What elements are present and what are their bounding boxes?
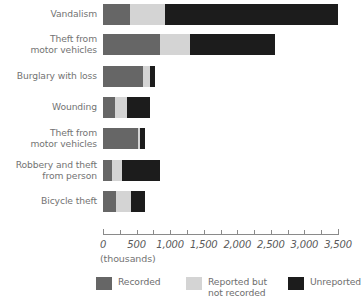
x-axis-tick <box>304 230 305 235</box>
bar-segment-reported-but-not-recorded[interactable] <box>130 4 165 25</box>
bar-row: Wounding <box>0 97 356 127</box>
x-axis-tick <box>153 230 154 235</box>
stacked-bar[interactable] <box>103 34 275 55</box>
bar-segment-unreported[interactable] <box>165 4 338 25</box>
x-axis-tick-label: 1,000 <box>156 239 184 250</box>
category-label: Robbery and theft from person <box>0 160 97 181</box>
bar-row: Theft from motor vehicles <box>0 34 356 64</box>
x-axis-end-cap <box>338 229 339 235</box>
legend-item[interactable]: Unreported <box>288 277 361 290</box>
legend-item[interactable]: Reported but not recorded <box>186 277 267 298</box>
x-axis-end-cap <box>103 229 104 235</box>
bar-segment-unreported[interactable] <box>127 97 150 118</box>
legend-swatch <box>288 277 304 290</box>
bar-segment-unreported[interactable] <box>140 128 145 149</box>
bar-segment-unreported[interactable] <box>190 34 275 55</box>
bar-segment-reported-but-not-recorded[interactable] <box>116 191 131 212</box>
stacked-bar[interactable] <box>103 160 160 181</box>
x-axis-tick <box>120 230 121 235</box>
x-axis-tick <box>221 230 222 235</box>
category-label: Vandalism <box>0 9 97 20</box>
bar-row: Vandalism <box>0 4 356 34</box>
stacked-bar[interactable] <box>103 128 145 149</box>
bar-segment-recorded[interactable] <box>103 66 143 87</box>
x-axis-tick-labels: 05001,0001,5002,0002,5003,0003,500 <box>0 239 356 253</box>
bar-segment-recorded[interactable] <box>103 160 112 181</box>
x-axis-tick <box>237 230 238 235</box>
legend-label: Reported but not recorded <box>208 277 267 298</box>
bar-segment-reported-but-not-recorded[interactable] <box>115 97 127 118</box>
x-axis-tick <box>271 230 272 235</box>
category-label: Wounding <box>0 102 97 113</box>
bar-segment-recorded[interactable] <box>103 128 138 149</box>
legend-item[interactable]: Recorded <box>96 277 160 290</box>
legend-label: Recorded <box>118 277 160 288</box>
bar-row: Bicycle theft <box>0 191 356 221</box>
x-axis-tick-label: 2,500 <box>257 239 285 250</box>
bar-row: Theft from motor vehicles <box>0 128 356 158</box>
plot-area: VandalismTheft from motor vehiclesBurgla… <box>0 0 356 228</box>
x-axis-tick <box>254 230 255 235</box>
category-label: Theft from motor vehicles <box>0 34 97 55</box>
x-axis-unit-label: (thousands) <box>100 253 156 264</box>
legend-swatch <box>96 277 112 290</box>
x-axis-tick <box>288 230 289 235</box>
category-label: Bicycle theft <box>0 196 97 207</box>
bar-segment-unreported[interactable] <box>131 191 144 212</box>
x-axis-tick-label: 3,000 <box>291 239 319 250</box>
bar-segment-unreported[interactable] <box>122 160 160 181</box>
x-axis-tick-label: 3,500 <box>324 239 352 250</box>
bar-segment-unreported[interactable] <box>150 66 155 87</box>
bar-segment-recorded[interactable] <box>103 4 130 25</box>
x-axis-line <box>103 234 338 235</box>
x-axis-tick-label: 2,000 <box>223 239 251 250</box>
stacked-bar[interactable] <box>103 97 150 118</box>
x-axis-tick <box>137 230 138 235</box>
bar-segment-recorded[interactable] <box>103 34 160 55</box>
legend-swatch <box>186 277 202 290</box>
x-axis-tick <box>187 230 188 235</box>
x-axis-tick <box>204 230 205 235</box>
bar-row: Burglary with loss <box>0 66 356 96</box>
x-axis-tick-label: 0 <box>100 239 106 250</box>
x-axis-tick-label: 1,500 <box>190 239 218 250</box>
bar-row: Robbery and theft from person <box>0 160 356 190</box>
bar-segment-recorded[interactable] <box>103 191 116 212</box>
category-label: Theft from motor vehicles <box>0 128 97 149</box>
bar-segment-reported-but-not-recorded[interactable] <box>112 160 122 181</box>
legend-label: Unreported <box>310 277 361 288</box>
bar-segment-reported-but-not-recorded[interactable] <box>160 34 190 55</box>
x-axis-tick-label: 500 <box>127 239 146 250</box>
x-axis-tick <box>321 230 322 235</box>
stacked-bar[interactable] <box>103 66 155 87</box>
category-label: Burglary with loss <box>0 71 97 82</box>
bar-segment-recorded[interactable] <box>103 97 115 118</box>
x-axis-tick <box>170 230 171 235</box>
stacked-bar[interactable] <box>103 191 145 212</box>
bar-segment-reported-but-not-recorded[interactable] <box>143 66 150 87</box>
chart-legend: RecordedReported but not recordedUnrepor… <box>96 277 356 305</box>
stacked-bar[interactable] <box>103 4 338 25</box>
